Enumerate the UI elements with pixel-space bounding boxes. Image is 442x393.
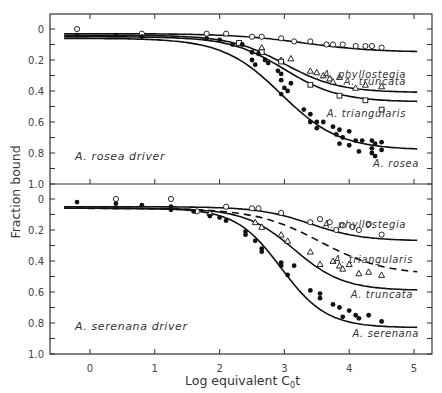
data-point [259,249,264,254]
data-point [308,220,313,225]
series-label: A. truncata [350,289,413,300]
y-tick-label: 0.8 [28,148,44,159]
data-point [347,143,352,148]
data-point [249,34,254,39]
data-point [256,51,261,56]
data-point [347,129,352,134]
data-point [366,313,371,318]
data-point [357,149,362,154]
data-point [253,238,258,243]
data-point [256,206,261,211]
data-point [357,316,362,321]
data-point [369,146,374,151]
data-point [204,36,209,41]
data-point [356,270,362,275]
data-point [363,98,368,103]
data-point [279,263,284,268]
y-tick-label: 1.0 [28,349,44,360]
data-point [337,141,342,146]
data-point [278,232,284,237]
data-point [191,209,196,214]
data-point [373,141,378,146]
series-label: A. serenana [351,328,419,339]
data-point [279,59,284,64]
data-point [288,55,294,60]
series-label: A. phyllostegia [322,219,406,230]
y-tick-label: 0.2 [28,225,44,236]
x-tick-label: 1 [152,363,158,374]
y-tick-label: 0.8 [28,318,44,329]
x-axis-title-end: t [295,373,300,388]
data-point [230,42,235,47]
data-point [113,196,118,201]
data-point [379,232,384,237]
data-point [139,203,144,208]
data-point [292,39,297,44]
data-point [317,261,323,266]
data-point [308,39,313,44]
x-axis-title: Log equivalent C0t [185,373,300,390]
data-point [347,308,352,313]
data-point [250,58,255,63]
data-point [353,138,358,143]
data-point [279,210,284,215]
series-labels: A. phyllostegiaA. truncataA. triangulari… [322,69,419,339]
y-axis-title: Fraction bound [8,145,23,238]
x-axis-title-main: Log equivalent C [185,373,290,388]
data-point [279,92,284,97]
data-point [223,204,228,209]
y-tick-label: 0.4 [28,86,44,97]
data-point [340,314,345,319]
series-label: A. truncata [343,76,406,87]
data-point [253,62,258,67]
data-point [360,138,365,143]
data-point [324,42,329,47]
data-point [75,200,80,205]
curve-a-rosea [64,38,417,148]
data-point [369,43,374,48]
data-point [114,201,119,206]
y-tick-label: 0 [38,194,44,205]
data-point [288,81,293,86]
data-point [308,120,313,125]
data-point [308,82,313,87]
top-panel-driver-label: A. rosea driver [74,150,166,163]
data-point [259,45,265,50]
data-point [340,135,345,140]
data-point [337,127,342,132]
data-point [285,89,290,94]
data-point [318,291,323,296]
data-point [307,249,313,254]
data-point [279,78,284,83]
data-point [217,37,222,42]
series-label: A. triangularis [326,108,406,119]
data-point [292,263,297,268]
data-point [75,33,80,38]
data-point [204,31,209,36]
hybridization-chart: 01234500.20.40.60.81.000.20.40.60.81.0 A… [0,0,442,393]
data-point [169,207,174,212]
data-point [243,232,248,237]
data-point [379,45,384,50]
data-point [363,43,368,48]
data-point [331,124,336,129]
data-point [259,34,264,39]
data-point [321,120,326,125]
data-point [279,36,284,41]
data-point [314,120,319,125]
data-point [250,50,255,55]
data-point [285,273,290,278]
x-tick-label: 5 [411,363,417,374]
data-point [240,42,245,47]
data-point [314,69,320,74]
data-point [353,43,358,48]
series-label: A. rosea [372,158,419,169]
data-point [307,68,313,73]
data-point [379,140,384,145]
data-point [224,218,229,223]
y-tick-label: 1.0 [28,179,44,190]
x-tick-label: 0 [87,363,93,374]
data-point [223,31,228,36]
data-point [334,132,339,137]
data-point [114,33,119,38]
